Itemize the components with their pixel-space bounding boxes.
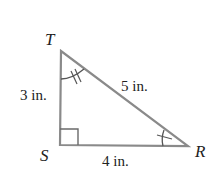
side-label-ts: 3 in. (20, 87, 47, 103)
tick-t-2 (75, 69, 81, 82)
right-angle-mark-s (60, 129, 78, 145)
triangle-tsr (60, 51, 188, 146)
vertex-label-t: T (45, 30, 56, 49)
vertex-label-r: R (194, 142, 206, 161)
angle-mark-r (162, 130, 164, 146)
tick-t-1 (71, 71, 77, 84)
tick-r (157, 135, 172, 139)
side-label-sr: 4 in. (102, 153, 129, 169)
triangle-diagram: T S R 3 in. 5 in. 4 in. (0, 0, 216, 189)
side-label-tr: 5 in. (121, 78, 148, 94)
vertex-label-s: S (40, 146, 49, 165)
